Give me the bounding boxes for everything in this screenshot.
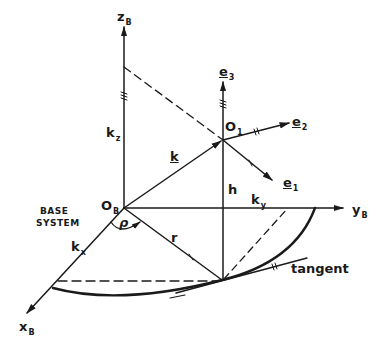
e1-label: e1	[283, 176, 298, 189]
x-axis-label: xB	[19, 320, 35, 333]
e2-label: e2	[292, 115, 307, 128]
z-axis-tick-marks	[121, 92, 127, 100]
h-label: h	[228, 183, 237, 196]
base-system-label: BASE SYSTEM	[36, 205, 80, 229]
e1-vector	[223, 140, 272, 180]
z-axis-label: zB	[117, 10, 132, 23]
ky-label: ky	[251, 193, 266, 206]
kx-label: kx	[71, 240, 86, 253]
ob-label: OB	[101, 199, 119, 212]
coordinate-system-diagram	[0, 0, 382, 350]
e3-tick-marks	[220, 100, 226, 108]
tangent-label: tangent	[291, 262, 349, 275]
o1-label: O1	[225, 120, 243, 133]
kz-projection-dashed	[124, 67, 223, 140]
y-axis-label: yB	[352, 203, 368, 216]
kz-label: kz	[106, 126, 120, 139]
k-vector-label: k	[170, 150, 179, 163]
rho-label: ρ	[119, 216, 128, 229]
curve-tick	[170, 295, 185, 298]
r-label: r	[171, 231, 177, 244]
tangent-line	[176, 258, 307, 293]
e3-label: e3	[219, 65, 234, 78]
